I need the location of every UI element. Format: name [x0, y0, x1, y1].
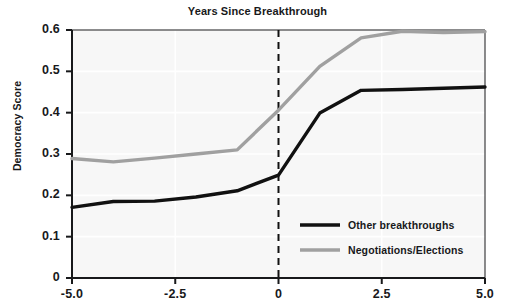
- y-tick-label: 0.5: [20, 63, 60, 77]
- chart-figure: Years Since Breakthrough Democracy Score…: [0, 0, 515, 307]
- x-tick-label: 2.5: [352, 287, 412, 301]
- x-tick-label: -2.5: [145, 287, 205, 301]
- x-tick-label: 5.0: [455, 287, 515, 301]
- legend-label-negotiations-elections: Negotiations/Elections: [348, 244, 463, 256]
- legend-label-other-breakthroughs: Other breakthroughs: [348, 219, 454, 231]
- y-tick-label: 0: [20, 270, 60, 284]
- x-tick-label: 0: [249, 287, 309, 301]
- plot-canvas: [0, 0, 515, 307]
- x-tick-label: -5.0: [42, 287, 102, 301]
- y-tick-label: 0.1: [20, 229, 60, 243]
- y-tick-label: 0.2: [20, 187, 60, 201]
- y-tick-label: 0.6: [20, 22, 60, 36]
- y-tick-label: 0.3: [20, 146, 60, 160]
- y-tick-label: 0.4: [20, 105, 60, 119]
